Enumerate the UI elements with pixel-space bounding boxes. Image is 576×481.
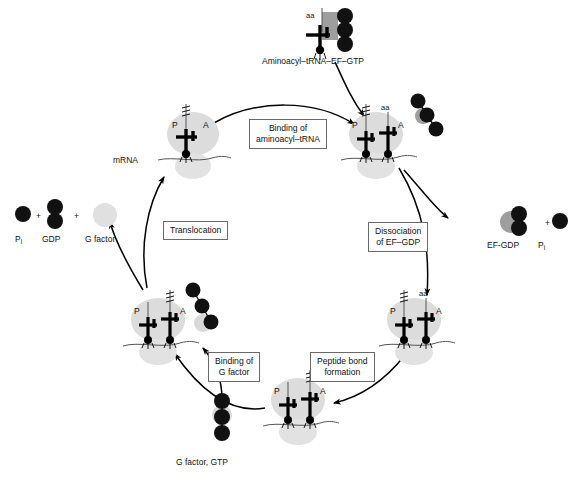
pi-output-left-label: Pi — [15, 234, 22, 247]
step-line-1: Dissociation — [375, 226, 421, 237]
ribosome-g-factor-bound: P A — [123, 290, 199, 365]
pi-output-right-label: Pi — [538, 240, 545, 253]
aa-label: aa — [419, 289, 428, 298]
step-translocation[interactable]: Translocation — [163, 221, 228, 240]
step-line-1: Translocation — [170, 225, 221, 236]
plus-sign-ef: + — [545, 218, 550, 228]
step-binding-g-factor[interactable]: Binding of G factor — [208, 352, 260, 382]
g-factor-output-label: G factor — [85, 234, 115, 244]
step-line-1: Binding of — [256, 123, 320, 134]
step-dissociation-ef-gdp[interactable]: Dissociation of EF–GDP — [368, 222, 428, 252]
step-line-1: Binding of — [215, 356, 253, 367]
aa-label: aa — [306, 11, 315, 20]
arrow-dissociation-ef-gdp-out — [404, 170, 448, 218]
aminoacyl-trna-ef-gtp-complex: aa — [306, 8, 353, 60]
arrow-translocation — [144, 177, 164, 288]
step-line-2: aminoacyl–tRNA — [256, 134, 320, 145]
step-line-2: formation — [317, 367, 368, 378]
g-factor-gtp-complex — [212, 393, 232, 441]
arrow-aa-trna-input — [335, 62, 364, 116]
a-site-label: A — [398, 120, 404, 130]
g-factor-beside-ribosome — [186, 283, 219, 333]
step-line-2: of EF–GDP — [375, 237, 421, 248]
ef-gdp-output-label: EF-GDP — [487, 240, 519, 250]
ribosome-aa-trna-bound: P A aa — [341, 103, 417, 179]
ef-gdp-beside-ribosome — [411, 94, 444, 137]
g-factor-gtp-label: G factor, GTP — [176, 457, 228, 467]
step-line-1: Peptide bond — [317, 356, 368, 367]
p-site-label: P — [172, 120, 178, 130]
a-site-label: A — [436, 306, 442, 316]
p-site-label: P — [134, 306, 140, 316]
ribosome-post-translocation: P A mRNA — [113, 104, 231, 179]
plus-sign-2: + — [74, 211, 79, 221]
pi-gdp-gfactor-products: + + — [15, 199, 117, 229]
p-site-label: P — [274, 386, 280, 396]
step-binding-aminoacyl-trna[interactable]: Binding of aminoacyl–tRNA — [249, 119, 327, 149]
ef-gdp-pi-products: + — [500, 206, 568, 236]
a-site-label: A — [180, 306, 186, 316]
plus-sign-1: + — [36, 211, 41, 221]
step-line-2: G factor — [215, 367, 253, 378]
arrow-translocation-products — [110, 222, 143, 290]
elongation-cycle-diagram: P A mRNA P — [0, 0, 576, 481]
a-site-label: A — [320, 386, 326, 396]
ribosome-ef-released: P A aa — [379, 289, 455, 365]
aa-label: aa — [381, 103, 390, 112]
gdp-output-label: GDP — [42, 234, 60, 244]
step-peptide-bond-formation[interactable]: Peptide bond formation — [310, 352, 375, 382]
a-site-label: A — [203, 120, 209, 130]
p-site-label: P — [352, 120, 358, 130]
aminoacyl-trna-ef-gtp-label: Aminoacyl–tRNA–EF–GTP — [262, 56, 364, 66]
mrna-label: mRNA — [113, 155, 138, 165]
p-site-label: P — [390, 306, 396, 316]
